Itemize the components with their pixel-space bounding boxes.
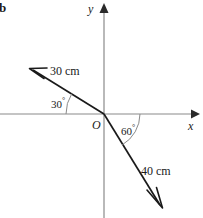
vector-diagram-figure: b y x O 30 cm 40 cm 30° 60°: [0, 0, 203, 218]
angle-60-label: 60°: [121, 124, 135, 137]
part-label: b: [0, 1, 6, 14]
angle-30-degree-symbol: °: [62, 96, 65, 105]
x-axis-arrowhead: [191, 110, 200, 119]
y-axis-label: y: [88, 3, 93, 15]
angle-60-value: 60: [121, 125, 132, 137]
angle-30-label: 30°: [51, 97, 65, 110]
x-axis-label: x: [188, 120, 193, 132]
angle-30-value: 30: [51, 98, 62, 110]
angle-60-degree-symbol: °: [132, 123, 135, 132]
angle-30-arc: [66, 94, 72, 114]
origin-label: O: [92, 119, 101, 131]
diagram-canvas: [0, 0, 203, 218]
y-axis-arrowhead: [100, 3, 109, 13]
vector-40cm-magnitude-label: 40 cm: [141, 165, 171, 177]
vector-30cm-magnitude-label: 30 cm: [50, 65, 80, 77]
